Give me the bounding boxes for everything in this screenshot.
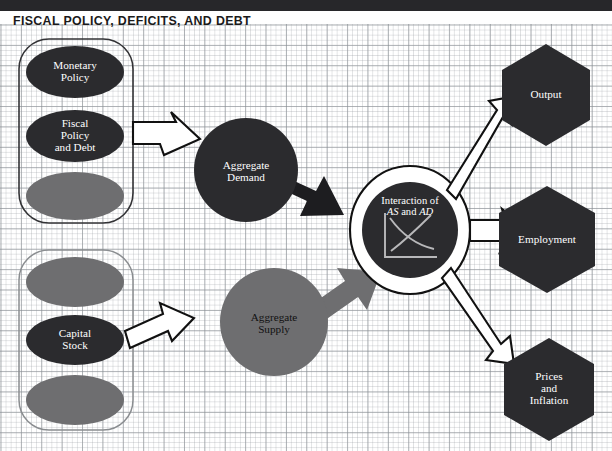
node-aggregate-supply[interactable] bbox=[220, 268, 328, 376]
node-output[interactable] bbox=[502, 44, 590, 146]
figure-title: FISCAL POLICY, DEFICITS, AND DEBT bbox=[13, 14, 251, 28]
node-fiscal-policy-and-debt[interactable] bbox=[26, 110, 124, 162]
node-capital-stock[interactable] bbox=[26, 315, 124, 365]
node-prices-and-inflation[interactable] bbox=[504, 338, 594, 441]
node-capital-blank-bottom[interactable] bbox=[26, 375, 124, 425]
node-policy-blank[interactable] bbox=[26, 172, 124, 220]
arrow-capital-stock-to-aggregate-supply bbox=[125, 303, 194, 348]
node-employment[interactable] bbox=[499, 186, 595, 293]
node-monetary-policy[interactable] bbox=[26, 46, 124, 98]
figure-root: FISCAL POLICY, DEFICITS, AND DEBT bbox=[0, 0, 612, 451]
diagram-canvas bbox=[0, 0, 612, 451]
node-aggregate-demand[interactable] bbox=[194, 118, 298, 222]
arrow-interaction-to-prices-and-inflation bbox=[442, 268, 514, 364]
node-interaction-as-ad[interactable] bbox=[362, 182, 458, 278]
node-capital-blank-top[interactable] bbox=[26, 257, 124, 307]
arrow-policy-to-aggregate-demand bbox=[133, 112, 200, 155]
